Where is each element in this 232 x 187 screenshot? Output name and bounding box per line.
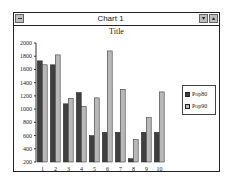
legend-swatch (185, 92, 190, 97)
svg-text:1800: 1800 (20, 53, 32, 59)
svg-text:800: 800 (23, 119, 32, 125)
svg-text:200: 200 (23, 159, 32, 165)
svg-text:400: 400 (23, 146, 32, 152)
svg-text:10: 10 (157, 166, 163, 172)
svg-text:1400: 1400 (20, 80, 32, 86)
svg-text:9: 9 (145, 166, 148, 172)
svg-text:1: 1 (41, 166, 44, 172)
legend-swatch (185, 104, 190, 109)
svg-text:5: 5 (93, 166, 96, 172)
svg-text:1600: 1600 (20, 66, 32, 72)
svg-text:2000: 2000 (20, 40, 32, 46)
svg-text:2: 2 (54, 166, 57, 172)
chart-window: Chart 1 ▾ ▴ Title 2000180016001400120010… (13, 12, 220, 172)
svg-text:3: 3 (67, 166, 70, 172)
legend-item-pop90: Pop90 (185, 102, 207, 110)
legend-item-pop80: Pop80 (185, 90, 207, 98)
chart-legend: Pop80 Pop90 (182, 85, 216, 115)
svg-text:1200: 1200 (20, 93, 32, 99)
svg-text:7: 7 (119, 166, 122, 172)
svg-text:6: 6 (106, 166, 109, 172)
svg-text:1000: 1000 (20, 106, 32, 112)
svg-text:8: 8 (132, 166, 135, 172)
svg-text:4: 4 (80, 166, 83, 172)
svg-text:600: 600 (23, 133, 32, 139)
